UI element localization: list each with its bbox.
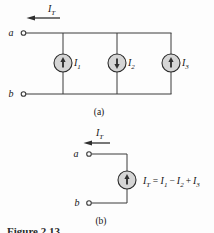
total-current-arrow-b — [84, 141, 111, 146]
node-a-label: a — [9, 27, 14, 38]
total-current-label-b: IT — [95, 127, 104, 141]
terminal-b-icon — [21, 92, 26, 97]
source-3-label: I3 — [181, 57, 189, 71]
arrow-head-left-icon — [84, 141, 93, 146]
node-a-label: a — [74, 148, 79, 159]
node-b-label: b — [75, 197, 80, 208]
figure-caption: Figure 2.13 — [7, 226, 60, 233]
circuit-a: IT a b I1 I — [9, 3, 190, 118]
section-a-label: (a) — [94, 107, 105, 118]
terminal-a-icon — [21, 31, 26, 36]
section-b-label: (b) — [95, 216, 106, 227]
arrow-head-left-icon — [27, 16, 36, 21]
circuit-diagram-svg: IT a b I1 I — [0, 0, 214, 233]
source-1-label: I1 — [73, 57, 81, 71]
equivalent-current-equation: IT=I1−I2+I3 — [142, 175, 200, 189]
circuit-b: IT a b IT=I1−I2+I3 (b) — [74, 127, 201, 227]
circuit-figure: IT a b I1 I — [0, 0, 214, 233]
terminal-a-icon — [87, 152, 92, 157]
current-source-2: I2 — [108, 33, 135, 94]
current-source-1: I1 — [54, 33, 81, 94]
current-source-3: I3 — [162, 33, 189, 94]
node-b-label: b — [9, 88, 14, 99]
terminal-b-icon — [87, 201, 92, 206]
source-2-label: I2 — [127, 57, 135, 71]
equivalent-current-source — [118, 171, 136, 189]
total-current-label-a: IT — [47, 3, 56, 17]
